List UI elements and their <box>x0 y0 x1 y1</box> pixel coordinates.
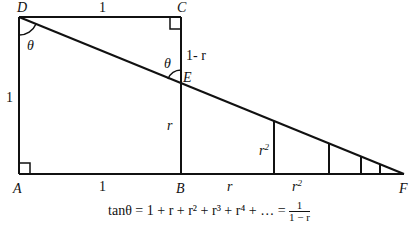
label-AB: 1 <box>99 179 106 194</box>
point-label-A: A <box>12 181 22 196</box>
point-label-F: F <box>398 181 408 196</box>
formula-series: = 1 + r + r² + r³ + r⁴ + … = <box>135 203 285 218</box>
fraction-numerator: 1 <box>289 200 310 211</box>
angle-label-D: θ <box>27 38 34 53</box>
point-label-C: C <box>177 0 187 15</box>
angle-arc-D <box>19 24 36 35</box>
label-CE: 1- r <box>186 48 206 63</box>
geometric-series-diagram: D C A B E F 1 1- r 1 r 1 r r2 r2 θ θ <box>0 0 418 231</box>
right-angle-C <box>170 17 181 29</box>
label-EB: r <box>167 118 173 133</box>
point-label-B: B <box>176 181 185 196</box>
label-base-r2: r2 <box>292 178 302 194</box>
formula-lhs: tanθ <box>108 203 132 218</box>
right-angle-A <box>19 163 30 174</box>
label-DC: 1 <box>99 0 106 15</box>
label-DA: 1 <box>6 90 13 105</box>
point-label-E: E <box>182 70 192 85</box>
segment-DF <box>19 17 404 174</box>
label-vertical-r2: r2 <box>259 142 269 158</box>
series-formula: tanθ = 1 + r + r² + r³ + r⁴ + … = 1 1 − … <box>0 200 418 223</box>
angle-label-E: θ <box>164 56 171 71</box>
label-B-next: r <box>227 179 233 194</box>
point-label-D: D <box>16 0 27 15</box>
fraction-denominator: 1 − r <box>289 211 310 223</box>
formula-fraction: 1 1 − r <box>289 200 310 223</box>
